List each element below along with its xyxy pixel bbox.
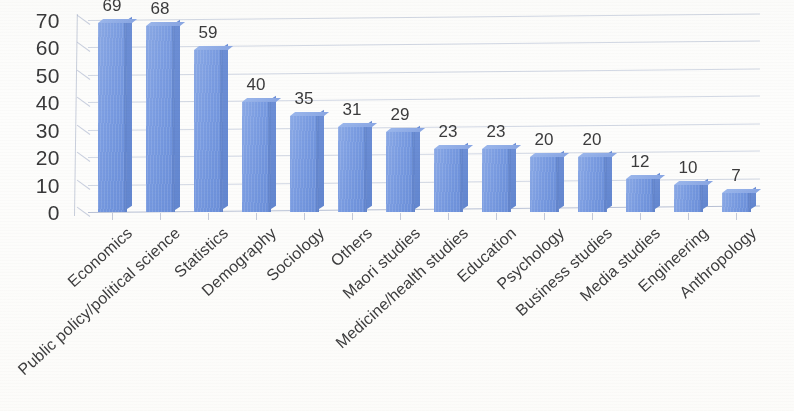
x-axis-tick [640, 213, 641, 220]
x-axis-tick [304, 213, 305, 220]
x-axis-tick [112, 213, 113, 220]
x-axis-tick [208, 213, 209, 220]
x-axis-tick [160, 213, 161, 220]
bar-chart: 706050403020100 696859403531292323202012… [0, 0, 794, 411]
x-axis-tick [448, 213, 449, 220]
x-axis-tick [256, 213, 257, 220]
x-axis-tick [352, 213, 353, 220]
x-axis-tick [688, 213, 689, 220]
x-axis-tick [592, 213, 593, 220]
x-axis-tick [544, 213, 545, 220]
x-axis-tick [736, 213, 737, 220]
x-axis-tick [496, 213, 497, 220]
x-axis-category-labels: EconomicsPublic policy/political science… [0, 0, 794, 411]
x-axis-tick [400, 213, 401, 220]
